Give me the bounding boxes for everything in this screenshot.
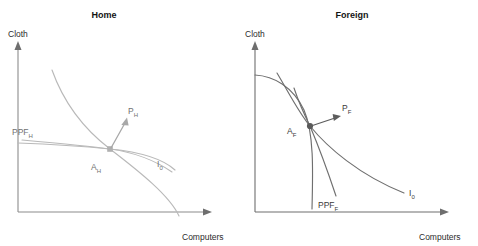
ppf-curve-foreign [255, 75, 313, 209]
x-axis-label-foreign: Computers [419, 232, 461, 242]
panel-foreign: Foreign Cloth Computers AF PF PPFF I0 [239, 0, 478, 246]
x-axis-arrowhead-foreign [440, 209, 449, 216]
y-axis-arrowhead-home [15, 41, 22, 50]
indifference-label-foreign: I0 [409, 188, 415, 200]
equilibrium-label-foreign: AF [287, 126, 297, 138]
two-panel-ppf-diagram: Home Cloth Computers PPFH AH PH I0 Forei… [0, 0, 478, 246]
panel-title-foreign: Foreign [336, 10, 369, 20]
panel-home: Home Cloth Computers PPFH AH PH I0 [0, 0, 239, 246]
equilibrium-label-home: AH [91, 162, 101, 174]
price-vector-home [111, 123, 125, 148]
y-axis-label-home: Cloth [8, 29, 28, 39]
x-axis-arrowhead-home [203, 209, 212, 216]
ppf-label-foreign: PPFF [318, 200, 339, 212]
price-vector-foreign [311, 118, 335, 126]
y-axis-arrowhead-foreign [252, 41, 259, 50]
ppf-label-home: PPFH [12, 127, 33, 139]
price-line-foreign [294, 88, 336, 196]
indifference-curve-home [52, 70, 179, 216]
y-axis-label-foreign: Cloth [245, 29, 265, 39]
price-vector-arrowhead-foreign [333, 114, 341, 121]
panel-title-home: Home [91, 10, 116, 20]
price-label-home: PH [128, 106, 138, 118]
price-vector-arrowhead-home [121, 118, 128, 126]
x-axis-label-home: Computers [182, 232, 224, 242]
price-label-foreign: PF [342, 103, 352, 115]
